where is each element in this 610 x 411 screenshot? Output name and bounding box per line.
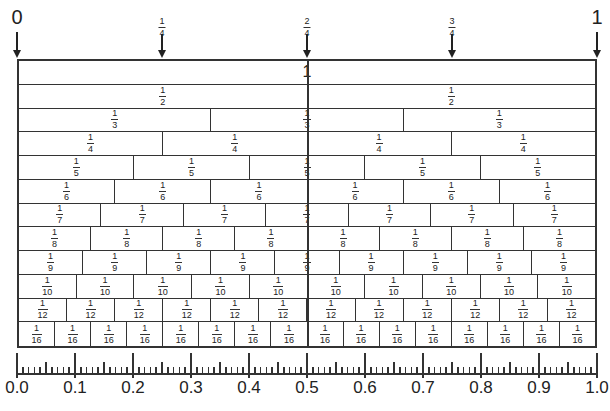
fraction-piece: 112	[356, 299, 404, 323]
fraction-label: 19	[175, 252, 182, 273]
ruler-minor-tick	[590, 367, 592, 374]
fraction-denominator: 6	[545, 193, 550, 202]
fraction-denominator: 7	[57, 216, 62, 225]
fraction-label: 110	[562, 276, 572, 297]
fraction-piece: 110	[423, 275, 481, 299]
ruler-minor-tick	[341, 367, 343, 374]
ruler-minor-tick	[271, 367, 273, 374]
fraction-numerator: 1	[177, 324, 184, 333]
ruler-minor-tick	[405, 367, 407, 374]
fraction-label: 110	[215, 276, 225, 297]
fraction-denominator: 12	[134, 311, 144, 320]
fraction-numerator: 1	[466, 324, 473, 333]
fraction-numerator: 1	[73, 157, 80, 166]
fraction-denominator: 7	[469, 216, 474, 225]
fraction-piece: 112	[19, 299, 67, 323]
fraction-denominator: 10	[331, 288, 341, 297]
fraction-label: 112	[470, 299, 480, 320]
fraction-denominator: 8	[52, 240, 57, 249]
ruler-minor-tick	[283, 367, 285, 374]
ruler-minor-tick	[498, 367, 500, 374]
fraction-numerator: 1	[56, 204, 63, 213]
ruler-minor-tick	[167, 367, 169, 374]
ruler-mid-tick	[451, 362, 453, 375]
fraction-label: 116	[392, 324, 402, 345]
ruler-minor-tick	[196, 367, 198, 374]
fraction-piece: 16	[500, 180, 595, 204]
arrow-shaft	[596, 32, 598, 51]
ruler-minor-tick	[440, 367, 442, 374]
fraction-label: 15	[73, 157, 80, 178]
ruler-minor-tick	[295, 367, 297, 374]
fraction-numerator: 2	[303, 17, 310, 26]
ruler-minor-tick	[179, 367, 181, 374]
fraction-label: 116	[356, 324, 366, 345]
ruler-minor-tick	[561, 367, 563, 374]
ruler-minor-tick	[474, 367, 476, 374]
ruler-minor-tick	[469, 367, 471, 374]
fraction-denominator: 2	[449, 98, 454, 107]
fraction-numerator: 1	[352, 181, 359, 190]
fraction-label: 12	[448, 86, 455, 107]
fraction-label: 12	[159, 86, 166, 107]
ruler-minor-tick	[155, 367, 157, 374]
ruler-minor-tick	[184, 367, 186, 374]
fraction-label: 116	[68, 324, 78, 345]
ruler-minor-tick	[428, 367, 430, 374]
fraction-piece: 116	[235, 322, 271, 346]
fraction-label: 15	[419, 157, 426, 178]
fraction-numerator: 1	[430, 324, 437, 333]
fraction-numerator: 1	[568, 299, 575, 308]
fraction-label: 116	[140, 324, 150, 345]
fraction-denominator: 7	[552, 216, 557, 225]
ruler-major-tick	[596, 353, 598, 378]
fraction-piece: 12	[19, 85, 308, 109]
fraction-numerator: 1	[534, 157, 541, 166]
fraction-piece: 110	[481, 275, 539, 299]
fraction-piece: 19	[340, 251, 404, 275]
fraction-label: 17	[221, 204, 228, 225]
fraction-piece: 110	[308, 275, 366, 299]
ruler-major-tick	[190, 353, 192, 378]
ruler-mid-tick	[161, 362, 163, 375]
fraction-piece: 110	[77, 275, 135, 299]
fraction-piece: 18	[380, 227, 452, 251]
fraction-denominator: 16	[140, 336, 150, 345]
fraction-numerator: 1	[505, 276, 512, 285]
ruler-label: 1.0	[585, 378, 609, 398]
fraction-denominator: 4	[232, 145, 237, 154]
fraction-piece: 110	[538, 275, 595, 299]
fraction-numerator: 1	[47, 252, 54, 261]
ruler-minor-tick	[457, 367, 459, 374]
fraction-denominator: 16	[536, 336, 546, 345]
fraction-denominator: 10	[42, 288, 52, 297]
ruler-minor-tick	[382, 367, 384, 374]
fraction-denominator: 8	[341, 240, 346, 249]
fraction-piece: 16	[211, 180, 307, 204]
fraction-denominator: 9	[497, 264, 502, 273]
ruler-minor-tick	[97, 367, 99, 374]
fraction-piece: 17	[349, 204, 431, 228]
fraction-label: 116	[104, 324, 114, 345]
fraction-label: 17	[551, 204, 558, 225]
ruler-mid-tick	[335, 362, 337, 375]
ruler-minor-tick	[324, 367, 326, 374]
fraction-label: 18	[267, 228, 274, 249]
fraction-denominator: 12	[326, 311, 336, 320]
ruler-minor-tick	[387, 367, 389, 374]
ruler-mid-tick	[103, 362, 105, 375]
fraction-label: 19	[496, 252, 503, 273]
ruler-minor-tick	[28, 367, 30, 374]
fraction-numerator: 1	[44, 276, 51, 285]
fraction-label: 19	[239, 252, 246, 273]
arrow-down-icon	[593, 50, 601, 58]
fraction-label: 116	[32, 324, 42, 345]
fraction-piece: 116	[55, 322, 91, 346]
fraction-denominator: 16	[248, 336, 258, 345]
fraction-label: 16	[255, 181, 262, 202]
fraction-denominator: 16	[176, 336, 186, 345]
fraction-denominator: 6	[256, 193, 261, 202]
ruler-minor-tick	[573, 367, 575, 374]
fraction-numerator: 1	[496, 109, 503, 118]
ruler-minor-tick	[486, 367, 488, 374]
